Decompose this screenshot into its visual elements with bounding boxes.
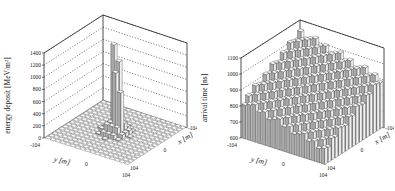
z-tick-label: 600 <box>230 135 239 141</box>
z-tick-label: 1200 <box>30 62 41 68</box>
y-max-tick: 104 <box>319 172 328 178</box>
z-tick-label: 200 <box>33 123 42 129</box>
y-max-tick: 104 <box>122 172 131 178</box>
z-tick-label: 600 <box>33 99 42 105</box>
x-max-tick: 104 <box>327 165 336 171</box>
bars <box>242 29 383 165</box>
energy-deposit-plot: 0200400600800100012001400energy deposit … <box>0 0 197 191</box>
z-tick-label: 800 <box>230 103 239 109</box>
x-axis-label: x [m] <box>175 130 195 147</box>
z-tick-label: 1000 <box>30 74 41 80</box>
x-zero-tick: 0 <box>164 147 167 153</box>
z-tick-label: 0 <box>38 135 41 141</box>
y-axis-label: y [m] <box>52 154 71 166</box>
z-tick-label: 400 <box>33 111 42 117</box>
x-max-tick: 104 <box>130 165 139 171</box>
y-min-tick: -104 <box>227 142 237 148</box>
arrival-time-chart: 60070080090010001100arrival time [ns]-10… <box>197 0 394 191</box>
z-tick-label: 1000 <box>227 71 238 77</box>
z-tick-label: 800 <box>33 86 42 92</box>
z-tick-label: 900 <box>230 87 239 93</box>
x-axis-label: x [m] <box>372 130 392 147</box>
energy-deposit-chart: 0200400600800100012001400energy deposit … <box>0 0 197 191</box>
z-tick-label: 1100 <box>227 55 238 61</box>
x-zero-tick: 0 <box>361 147 364 153</box>
z-tick-label: 700 <box>230 119 239 125</box>
y-axis-label: y [m] <box>249 154 268 166</box>
z-axis-label: arrival time [ns] <box>200 74 209 122</box>
z-tick-label: 1400 <box>30 50 41 56</box>
arrival-time-plot: 60070080090010001100arrival time [ns]-10… <box>197 0 394 191</box>
y-zero-tick: 0 <box>282 161 285 167</box>
y-min-tick: -104 <box>30 142 40 148</box>
y-zero-tick: 0 <box>85 161 88 167</box>
z-axis-label: energy deposit [MeV/m²] <box>3 57 12 133</box>
